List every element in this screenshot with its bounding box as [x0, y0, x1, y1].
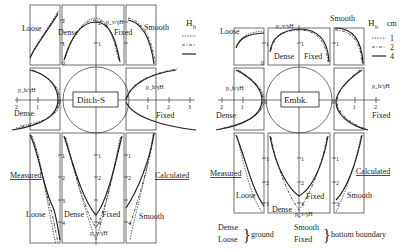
ditch-left-dense-label: Dense	[14, 109, 34, 118]
tick: 2	[266, 180, 269, 186]
embk-bottom-smooth-label: Smooth	[347, 191, 372, 200]
ditch-panel-label: Ditch-S	[77, 95, 105, 105]
tick: 1	[98, 41, 101, 47]
embk-top-smooth-label: Smooth	[330, 14, 355, 23]
embk-bottom-dense-label: Dense	[272, 205, 292, 214]
embk-top-axis-label: p_v/γH	[276, 23, 294, 29]
embk-bottom-axis-label: p_v/γH	[295, 211, 313, 217]
embk-panel-label: Embk.	[284, 95, 308, 105]
key-fixed: Fixed	[294, 235, 312, 244]
ditch-top-axis-label: p_v/γH	[106, 19, 124, 25]
tick: 2	[128, 175, 131, 181]
ditch-bottom-axis-label: p_v/γH	[90, 230, 108, 236]
tick: 1	[336, 41, 339, 47]
legend-embk: H b cm 1 2 4	[368, 18, 398, 61]
tick: 0	[332, 99, 335, 105]
legend-unit: cm	[387, 19, 398, 28]
embk-bottom-fixed-label: Fixed	[306, 192, 324, 201]
embk-measured-label: Measured	[210, 169, 242, 178]
tick: 3	[336, 201, 339, 207]
legend-value: 2	[390, 43, 394, 52]
ditch-bottom-dense-label: Dense	[64, 210, 84, 219]
tick: 1	[241, 104, 244, 110]
tick: 2	[98, 175, 101, 181]
tick: 1	[266, 156, 269, 162]
tick: 2	[336, 180, 339, 186]
ditch-top-dense-label: Dense	[58, 28, 78, 37]
tick: 1	[36, 104, 39, 110]
legend-ditch: H b	[182, 18, 196, 54]
tick: 1	[62, 153, 65, 159]
ditch-top-loose-label: Loose	[22, 24, 42, 33]
key-smooth: Smooth	[294, 223, 319, 232]
tick: 0	[261, 60, 264, 66]
tick: 2	[62, 18, 65, 24]
tick: 2	[220, 104, 223, 110]
tick: 1	[62, 41, 65, 47]
legend-title: H	[186, 18, 193, 28]
embk-top-dense-label: Dense	[274, 52, 294, 61]
key-dense: Dense	[218, 223, 238, 232]
tick: 1	[336, 156, 339, 162]
ditch-measured-label: Measured	[10, 171, 42, 180]
key-ground-label: ground	[251, 230, 274, 239]
key-loose: Loose	[218, 235, 238, 244]
brace-icon: }	[243, 227, 251, 244]
ditch-calculated-label: Calculated	[155, 171, 189, 180]
ditch-top-smooth-label: Smooth	[144, 23, 169, 32]
condition-key: Dense Loose } ground Smooth Fixed } bott…	[218, 223, 386, 244]
tick: 1	[128, 153, 131, 159]
ditch-left-axis-label: p_h/γH	[18, 87, 36, 93]
tick: 4	[62, 220, 65, 226]
tick: 2	[167, 104, 170, 110]
ditch-panel: Loose Dense Fixed Smooth p_v/γH 2 1 0 2 …	[10, 5, 196, 245]
embk-top-loose-label: Loose	[220, 27, 240, 36]
tick: 2	[98, 20, 101, 26]
embk-right-fixed-label: Fixed	[372, 111, 390, 120]
ditch-top-fixed-label: Fixed	[114, 28, 132, 37]
tick: 2	[15, 104, 18, 110]
tick: 1	[301, 156, 304, 162]
tick: 0	[264, 99, 267, 105]
embk-panel: Loose Dense Fixed Smooth p_v/γH 1 1 1 0 …	[210, 14, 390, 218]
ditch-right-axis-label: p_h/γH	[146, 84, 164, 90]
tick: 3	[301, 201, 304, 207]
tick: 4	[128, 220, 131, 226]
tick: 1	[353, 104, 356, 110]
embk-calculated-label: Calculated	[356, 167, 390, 176]
tick: 4	[98, 220, 101, 226]
tick: 1	[301, 41, 304, 47]
embk-right-axis-label: p_h/γH	[372, 83, 390, 89]
ditch-bottom-fixed-label: Fixed	[102, 210, 120, 219]
tick: 1	[146, 104, 149, 110]
ditch-bottom-smooth-label: Smooth	[139, 212, 164, 221]
tick: 3	[188, 104, 191, 110]
legend-value: 1	[390, 34, 394, 43]
tick: 3	[266, 201, 269, 207]
tick: 1	[266, 41, 269, 47]
legend-value: 4	[390, 52, 394, 61]
legend-title-sub: b	[193, 24, 196, 30]
tick: 2	[374, 104, 377, 110]
ditch-right-fixed-label: Fixed	[156, 111, 174, 120]
legend-title: H	[368, 18, 375, 28]
embk-left-dense-label: Dense	[216, 111, 236, 120]
tick: 0	[58, 99, 61, 105]
tick: 1	[98, 153, 101, 159]
key-boundary-label: bottom boundary	[331, 230, 386, 239]
tick: 2	[301, 180, 304, 186]
earth-pressure-diagram: Loose Dense Fixed Smooth p_v/γH 2 1 0 2 …	[0, 0, 402, 250]
embk-left-axis-label: p_h/γH	[226, 85, 244, 91]
legend-title-sub: b	[375, 24, 378, 30]
ditch-bottom-loose-label: Loose	[26, 210, 46, 219]
tick: 2	[62, 175, 65, 181]
tick: 3	[62, 198, 65, 204]
brace-icon: }	[323, 227, 331, 244]
tick: 0	[62, 60, 65, 66]
embk-bottom-loose-label: Loose	[236, 191, 256, 200]
embk-top-fixed-label: Fixed	[304, 52, 322, 61]
